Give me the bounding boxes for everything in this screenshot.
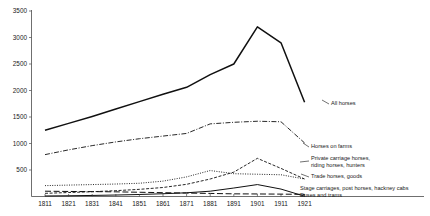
series-line-0 xyxy=(45,27,305,130)
y-tick-label: 3000 xyxy=(13,34,28,41)
series-group xyxy=(45,27,305,196)
series-leader-1 xyxy=(303,143,309,147)
chart-container: 500100015002000250030003500 181118211831… xyxy=(0,0,430,216)
y-tick-label: 500 xyxy=(16,166,27,173)
x-tick-label: 1811 xyxy=(38,200,52,207)
series-line-1 xyxy=(45,121,305,154)
x-tick-label: 1831 xyxy=(85,200,100,207)
y-tick-label: 1000 xyxy=(13,140,28,147)
y-axis-tick-group: 500100015002000250030003500 xyxy=(13,7,32,173)
series-label-5: Buses and trams xyxy=(300,192,342,198)
line-chart: 500100015002000250030003500 181118211831… xyxy=(0,0,430,216)
x-tick-label: 1821 xyxy=(61,200,76,207)
x-tick-label: 1881 xyxy=(203,200,218,207)
series-label-1: Horses on farms xyxy=(311,143,352,149)
x-tick-label: 1841 xyxy=(109,200,124,207)
series-line-3 xyxy=(45,171,305,186)
series-leader-2 xyxy=(300,161,309,162)
series-label-2: Private carriage horses, xyxy=(311,155,371,161)
series-label-3: Trade horses, goods xyxy=(311,173,362,179)
x-tick-label: 1861 xyxy=(156,200,171,207)
series-leader-0 xyxy=(322,100,329,104)
x-tick-label: 1921 xyxy=(297,200,312,207)
series-leader-3 xyxy=(301,174,309,177)
x-tick-label: 1851 xyxy=(132,200,147,207)
series-label-group: All horsesHorses on farmsPrivate carriag… xyxy=(300,100,409,198)
y-tick-label: 2500 xyxy=(13,60,28,67)
y-tick-label: 2000 xyxy=(13,87,28,94)
series-label-2: riding horses, hunters xyxy=(311,162,365,168)
series-label-4: Stage carriages, post horses, hackney ca… xyxy=(300,185,409,191)
x-tick-label: 1911 xyxy=(274,200,288,207)
x-tick-label: 1871 xyxy=(179,200,194,207)
x-tick-label: 1891 xyxy=(227,200,242,207)
y-tick-label: 3500 xyxy=(13,7,28,14)
series-label-0: All horses xyxy=(331,100,356,106)
series-line-2 xyxy=(45,158,305,193)
y-tick-label: 1500 xyxy=(13,113,28,120)
x-tick-label: 1901 xyxy=(250,200,265,207)
